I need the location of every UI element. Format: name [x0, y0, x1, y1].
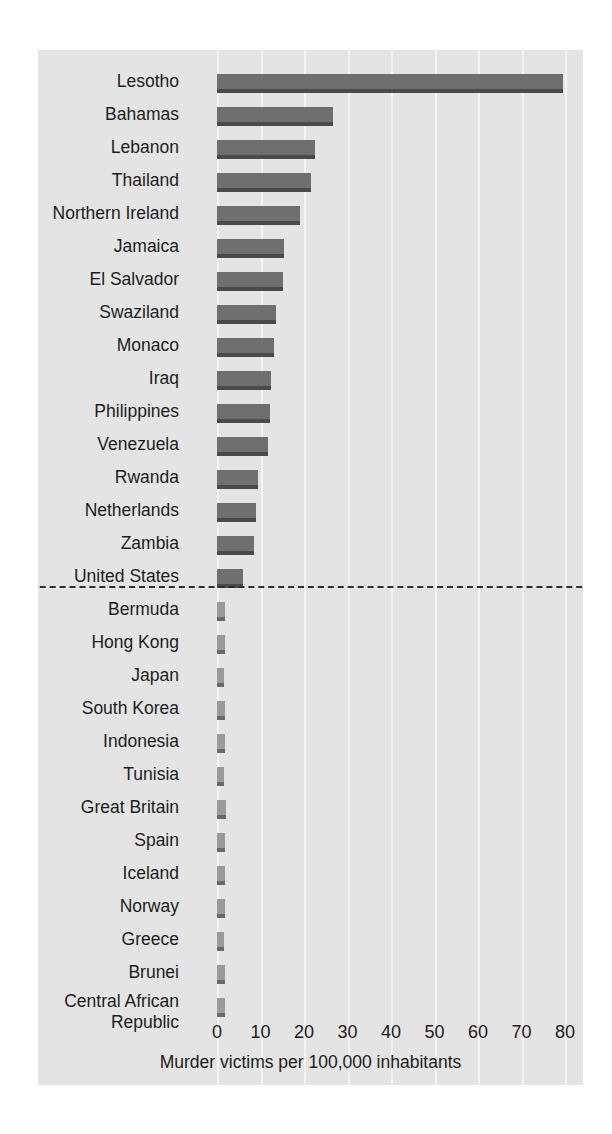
- category-label: United States: [0, 566, 179, 586]
- category-label: Swaziland: [0, 302, 179, 322]
- bar: [217, 866, 225, 885]
- x-axis-title: Murder victims per 100,000 inhabitants: [38, 1052, 583, 1073]
- bar: [217, 140, 315, 159]
- bar: [217, 998, 225, 1017]
- category-label: South Korea: [0, 698, 179, 718]
- category-label: Indonesia: [0, 731, 179, 751]
- bar: [217, 338, 274, 357]
- x-tick-label: 50: [424, 1022, 444, 1043]
- category-label: El Salvador: [0, 269, 179, 289]
- x-tick-label: 60: [468, 1022, 488, 1043]
- bar: [217, 701, 225, 720]
- bar: [217, 74, 563, 93]
- category-label: Northern Ireland: [0, 203, 179, 223]
- category-label: Norway: [0, 896, 179, 916]
- bar: [217, 602, 225, 621]
- bar: [217, 239, 284, 258]
- category-label: Zambia: [0, 533, 179, 553]
- category-label: Brunei: [0, 962, 179, 982]
- x-tick-label: 40: [381, 1022, 401, 1043]
- bar: [217, 272, 283, 291]
- category-label: Thailand: [0, 170, 179, 190]
- bar: [217, 470, 258, 489]
- category-label: Spain: [0, 830, 179, 850]
- bar: [217, 371, 271, 390]
- chart-figure: LesothoBahamasLebanonThailandNorthern Ir…: [0, 0, 612, 1134]
- x-tick-label: 70: [511, 1022, 531, 1043]
- x-tick-label: 20: [294, 1022, 314, 1043]
- threshold-separator-line: [38, 586, 583, 588]
- x-tick-label: 10: [250, 1022, 270, 1043]
- bar: [217, 305, 276, 324]
- bar: [217, 668, 224, 687]
- bar: [217, 932, 224, 951]
- category-label: Monaco: [0, 335, 179, 355]
- category-label: Bermuda: [0, 599, 179, 619]
- bar: [217, 206, 300, 225]
- bar: [217, 404, 270, 423]
- category-label: Bahamas: [0, 104, 179, 124]
- bar: [217, 107, 333, 126]
- category-label: Rwanda: [0, 467, 179, 487]
- bar: [217, 965, 225, 984]
- category-label: Lesotho: [0, 71, 179, 91]
- bar: [217, 800, 226, 819]
- bar: [217, 635, 225, 654]
- bar: [217, 899, 225, 918]
- bar: [217, 767, 224, 786]
- category-label: Tunisia: [0, 764, 179, 784]
- category-label: Great Britain: [0, 797, 179, 817]
- category-label: Jamaica: [0, 236, 179, 256]
- category-label: Venezuela: [0, 434, 179, 454]
- category-label: Japan: [0, 665, 179, 685]
- category-label: Hong Kong: [0, 632, 179, 652]
- bar: [217, 503, 256, 522]
- bar: [217, 536, 254, 555]
- x-axis-ticks: 01020304050607080: [38, 1022, 583, 1048]
- category-label: Netherlands: [0, 500, 179, 520]
- bar: [217, 833, 225, 852]
- bar: [217, 734, 225, 753]
- x-tick-label: 30: [337, 1022, 357, 1043]
- category-label: Iceland: [0, 863, 179, 883]
- x-tick-label: 80: [555, 1022, 575, 1043]
- category-label: Iraq: [0, 368, 179, 388]
- category-label: Philippines: [0, 401, 179, 421]
- category-label: Lebanon: [0, 137, 179, 157]
- x-tick-label: 0: [212, 1022, 222, 1043]
- bar: [217, 437, 268, 456]
- category-label: Greece: [0, 929, 179, 949]
- bar: [217, 173, 311, 192]
